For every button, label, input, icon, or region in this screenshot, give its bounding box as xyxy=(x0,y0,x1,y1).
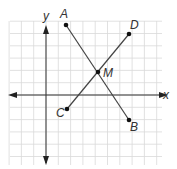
point-m xyxy=(96,70,101,75)
y-axis-down-arrow-icon xyxy=(43,156,49,165)
point-a xyxy=(64,23,69,28)
label-d: D xyxy=(130,18,139,32)
x-axis-label: x xyxy=(162,88,170,102)
y-axis-up-arrow-icon xyxy=(43,25,49,34)
coordinate-plane-diagram: y x A B C D M xyxy=(0,0,177,169)
label-c: C xyxy=(56,106,65,120)
label-b: B xyxy=(130,120,138,134)
grid xyxy=(9,21,162,165)
label-a: A xyxy=(59,7,68,21)
y-axis-label: y xyxy=(42,9,50,23)
point-d xyxy=(127,32,132,37)
point-c xyxy=(65,107,70,112)
label-m: M xyxy=(103,66,113,80)
